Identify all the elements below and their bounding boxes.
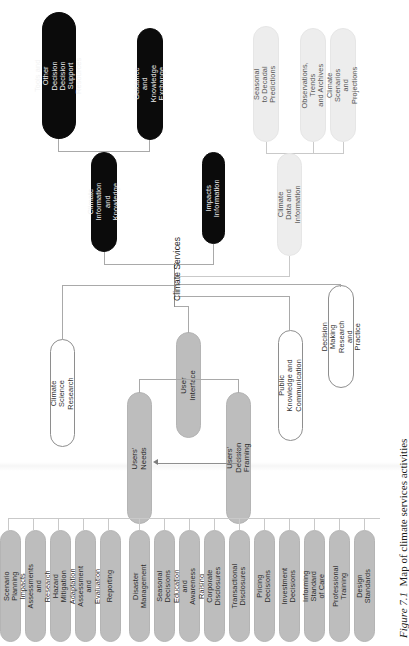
- connector: [104, 264, 174, 265]
- activity-disaster-management[interactable]: Disaster Management: [129, 530, 150, 642]
- node-public-knowledge-and-communication[interactable]: Public Knowledge and Communication: [278, 330, 303, 441]
- connector: [340, 284, 341, 287]
- node-label: Hazard Mitigation: [52, 570, 68, 602]
- figure-number: Figure 7.1: [397, 592, 409, 638]
- node-users-needs[interactable]: Users' Needs: [127, 392, 152, 524]
- connector: [339, 518, 340, 530]
- node-label: Decision Making Research and Practice: [320, 320, 361, 352]
- activity-professional-training[interactable]: Professional Training: [329, 530, 350, 642]
- activity-investment-decisions[interactable]: Investment Decisions: [279, 530, 300, 642]
- connector: [83, 518, 84, 530]
- connector: [174, 284, 341, 285]
- node-climate-data-and-information[interactable]: Climate Data and Information: [277, 153, 302, 256]
- node-tools-and-other-decision-support-resources[interactable]: Tools and Other Decision Decision Suppor…: [42, 12, 76, 139]
- node-label: Users' Needs: [131, 447, 148, 470]
- node-guidance-and-knowledge-exchange[interactable]: Guidance and Knowledge Exchange: [137, 28, 163, 140]
- feedback-arrowhead: [153, 459, 158, 465]
- connector: [108, 518, 109, 530]
- activity-adaptation-assessment-and-evaluation[interactable]: Adaptation Assessment and Evaluation: [75, 530, 96, 642]
- node-label: Seasonal Decisions: [156, 570, 172, 603]
- activity-transactional-disclosures[interactable]: Transactional Disclosures: [229, 530, 250, 642]
- activity-pricing-decisions[interactable]: Pricing Decisions: [254, 530, 275, 642]
- activity-design-standards[interactable]: Design Standards: [354, 530, 375, 642]
- node-label: Impacts Information: [205, 179, 222, 217]
- connector: [8, 518, 9, 530]
- feedback-arrow-line: [158, 463, 238, 464]
- node-label: Scenario Planning: [2, 571, 18, 601]
- connector: [139, 518, 140, 530]
- connector: [33, 518, 34, 530]
- node-climate-information-and-knowledge[interactable]: Climate Information and Knowledge: [91, 152, 117, 252]
- node-climate-science-research[interactable]: Climate Science Research: [50, 339, 75, 447]
- connector: [139, 379, 239, 380]
- connector: [164, 518, 165, 530]
- connector: [214, 518, 215, 530]
- connector: [58, 518, 59, 530]
- node-label: Transactional Disclosures: [231, 564, 247, 609]
- connector: [289, 296, 290, 331]
- activity-reporting[interactable]: Reporting: [100, 530, 121, 642]
- connector: [174, 296, 289, 297]
- connector: [213, 244, 214, 265]
- root-label: Climate Services: [172, 224, 182, 314]
- node-label: Professional Training: [331, 565, 347, 606]
- activities-spine: [8, 518, 380, 519]
- connector: [174, 276, 290, 277]
- node-label: Guidance and Knowledge Exchange: [133, 65, 166, 102]
- node-label: Climate Science Research: [50, 377, 75, 409]
- node-climate-scenarios-and-projections[interactable]: Climate Scenarios and Projections: [330, 28, 356, 142]
- connector: [188, 306, 189, 333]
- node-label: User Interface: [180, 370, 197, 400]
- node-user-interface[interactable]: User Interface: [176, 332, 201, 438]
- node-label: Corporate Disclosures: [206, 567, 222, 606]
- connector: [62, 285, 174, 286]
- connector: [62, 285, 63, 340]
- connector: [289, 518, 290, 530]
- node-label: Impacts Assessments and Research: [19, 564, 52, 608]
- node-decision-making-research-and-practice[interactable]: Decision Making Research and Practice: [328, 285, 354, 388]
- node-observations-trends-and-archives[interactable]: Observations, Trends and Archives: [300, 28, 326, 142]
- node-label: Public Knowledge and Communication: [278, 359, 303, 412]
- node-label: Design Standards: [356, 569, 372, 603]
- node-seasonal-to-decadal-predictions[interactable]: Seasonal to Decadal Predictions: [253, 26, 279, 142]
- figure-caption-text: Map of climate services activities: [397, 439, 409, 587]
- activity-impacts-assessments-and-research[interactable]: Impacts Assessments and Research: [25, 530, 46, 642]
- connector: [289, 256, 290, 277]
- node-label: Investment Decisions: [281, 568, 297, 605]
- connector: [314, 518, 315, 530]
- node-label: Climate Information and Knowledge: [87, 183, 120, 221]
- connector: [238, 379, 239, 393]
- connector: [266, 153, 344, 154]
- figure-caption: Figure 7.1 Map of climate services activ…: [397, 439, 409, 638]
- node-label: Tools and Other Decision Decision Suppor…: [34, 57, 84, 93]
- node-label: Observations, Trends and Archives: [301, 62, 326, 108]
- node-impacts-information[interactable]: Impacts Information: [202, 152, 225, 244]
- node-label: Informing Standard of Care: [302, 570, 327, 601]
- feedback-arrow-line: [238, 447, 239, 464]
- node-label: Disaster Management: [131, 564, 147, 608]
- activity-corporate-disclosures[interactable]: Corporate Disclosures: [204, 530, 225, 642]
- node-label: Reporting: [106, 570, 114, 603]
- connector: [364, 518, 365, 530]
- node-label: Climate Data and Information: [277, 185, 302, 223]
- node-label: Pricing Decisions: [256, 570, 272, 603]
- connector: [104, 252, 105, 265]
- activity-informing-standard-of-care[interactable]: Informing Standard of Care: [304, 530, 325, 642]
- connector: [264, 518, 265, 530]
- node-label: Climate Scenarios and Projections: [327, 66, 360, 103]
- connector: [139, 379, 140, 393]
- connector: [239, 518, 240, 530]
- node-label: Seasonal to Decadal Predictions: [254, 65, 279, 102]
- activity-education-and-awareness-raising[interactable]: Education and Awareness Raising: [179, 530, 200, 642]
- node-label: Education and Awareness Raising: [173, 568, 206, 605]
- node-label: Adaptation Assessment and Evaluation: [69, 566, 102, 607]
- connector: [189, 518, 190, 530]
